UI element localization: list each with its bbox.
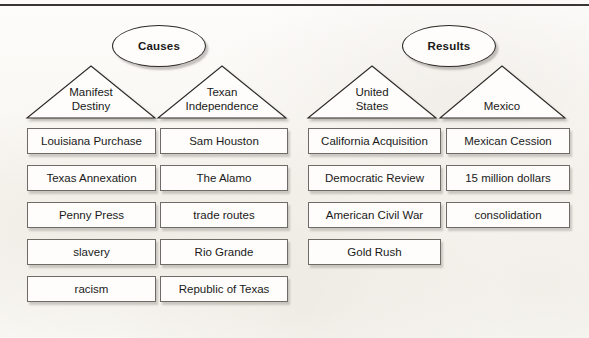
item-label: Louisiana Purchase <box>41 135 142 147</box>
item-box[interactable]: The Alamo <box>160 165 288 191</box>
item-box[interactable]: Republic of Texas <box>160 276 288 302</box>
group-bubble-causes-label: Causes <box>138 40 180 52</box>
item-box[interactable]: American Civil War <box>308 202 441 228</box>
item-label: Penny Press <box>59 209 124 221</box>
triangle-label-manifest-destiny: Manifest Destiny <box>41 86 141 113</box>
item-box[interactable]: California Acquisition <box>308 128 441 154</box>
triangle-label-united-states-line2: States <box>322 100 422 114</box>
item-label: Republic of Texas <box>179 283 270 295</box>
triangle-label-united-states: United States <box>322 86 422 113</box>
item-label: trade routes <box>193 209 254 221</box>
group-bubble-causes: Causes <box>112 25 206 67</box>
item-box[interactable]: racism <box>27 276 156 302</box>
item-label: Texas Annexation <box>46 172 136 184</box>
item-box[interactable]: slavery <box>27 239 156 265</box>
item-label: Sam Houston <box>189 135 259 147</box>
group-bubble-results: Results <box>402 25 496 67</box>
item-box[interactable]: consolidation <box>446 202 570 228</box>
group-bubble-results-label: Results <box>428 40 471 52</box>
item-box[interactable]: Louisiana Purchase <box>27 128 156 154</box>
triangle-label-manifest-destiny-line1: Manifest <box>41 86 141 100</box>
item-box[interactable]: Sam Houston <box>160 128 288 154</box>
item-label: American Civil War <box>326 209 423 221</box>
item-box[interactable]: Rio Grande <box>160 239 288 265</box>
item-label: Democratic Review <box>325 172 424 184</box>
item-label: Rio Grande <box>195 246 254 258</box>
item-label: Mexican Cession <box>464 135 552 147</box>
item-box[interactable]: Texas Annexation <box>27 165 156 191</box>
diagram-page: Causes Results Manifest Destiny Texan In… <box>0 0 589 338</box>
item-box[interactable]: 15 million dollars <box>446 165 570 191</box>
item-box[interactable]: Democratic Review <box>308 165 441 191</box>
triangle-label-texan-independence-line2: Independence <box>160 100 284 114</box>
triangle-label-mexico-line1: Mexico <box>452 100 552 114</box>
item-label: consolidation <box>474 209 541 221</box>
item-label: California Acquisition <box>321 135 428 147</box>
item-box[interactable]: trade routes <box>160 202 288 228</box>
item-box[interactable]: Mexican Cession <box>446 128 570 154</box>
triangle-label-united-states-line1: United <box>322 86 422 100</box>
item-label: slavery <box>73 246 109 258</box>
triangle-label-texan-independence-line1: Texan <box>160 86 284 100</box>
item-label: The Alamo <box>197 172 252 184</box>
triangle-label-texan-independence: Texan Independence <box>160 86 284 113</box>
item-label: Gold Rush <box>347 246 401 258</box>
item-label: racism <box>75 283 109 295</box>
item-label: 15 million dollars <box>465 172 551 184</box>
item-box[interactable]: Penny Press <box>27 202 156 228</box>
item-box[interactable]: Gold Rush <box>308 239 441 265</box>
triangle-label-manifest-destiny-line2: Destiny <box>41 100 141 114</box>
triangle-label-mexico: Mexico <box>452 100 552 114</box>
